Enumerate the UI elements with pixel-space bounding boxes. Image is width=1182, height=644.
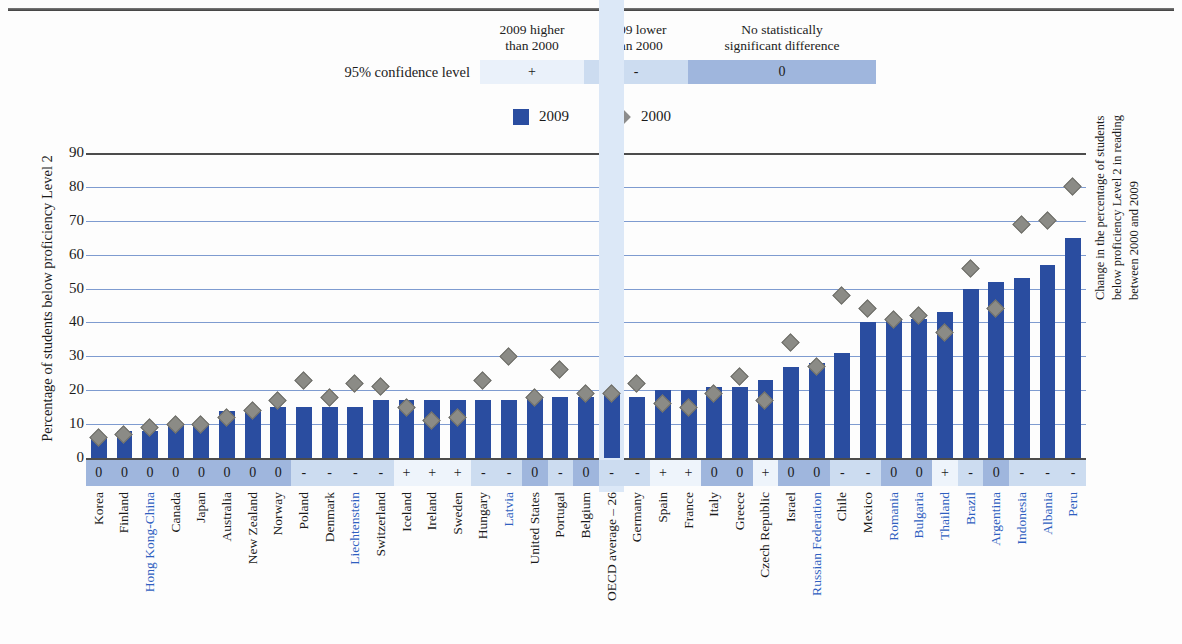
bars-layer xyxy=(86,153,1086,458)
category-label-text: France xyxy=(681,492,697,529)
category-label-text: Australia xyxy=(219,492,235,542)
bar-column[interactable] xyxy=(137,153,163,458)
bar-column[interactable] xyxy=(1035,153,1061,458)
bar-column[interactable] xyxy=(471,153,497,458)
bar-column[interactable] xyxy=(214,153,240,458)
bar-2009[interactable] xyxy=(501,400,517,458)
marker-2000-diamond-icon[interactable] xyxy=(551,361,569,379)
bar-column[interactable] xyxy=(317,153,343,458)
bar-2009[interactable] xyxy=(347,407,363,458)
bar-2009[interactable] xyxy=(860,322,876,458)
bar-column[interactable] xyxy=(163,153,189,458)
bar-column[interactable] xyxy=(804,153,830,458)
significance-cell: + xyxy=(753,460,779,486)
bar-column[interactable] xyxy=(958,153,984,458)
bar-2009[interactable] xyxy=(783,367,799,459)
bar-column[interactable] xyxy=(112,153,138,458)
marker-2000-diamond-icon[interactable] xyxy=(833,286,851,304)
significance-swatch-higher: + xyxy=(480,60,584,84)
bar-2009[interactable] xyxy=(424,400,440,458)
bar-column[interactable] xyxy=(778,153,804,458)
marker-2000-diamond-icon[interactable] xyxy=(320,388,338,406)
significance-cell: + xyxy=(445,460,471,486)
marker-2000-diamond-icon[interactable] xyxy=(730,367,748,385)
bar-2009[interactable] xyxy=(1014,278,1030,458)
marker-2000-diamond-icon[interactable] xyxy=(1063,178,1081,196)
significance-cell: 0 xyxy=(522,460,548,486)
bar-2009[interactable] xyxy=(834,353,850,458)
bar-column[interactable] xyxy=(445,153,471,458)
bar-column[interactable] xyxy=(753,153,779,458)
bar-2009[interactable] xyxy=(911,319,927,458)
bar-column[interactable] xyxy=(855,153,881,458)
marker-2000-diamond-icon[interactable] xyxy=(499,347,517,365)
marker-2000-diamond-icon[interactable] xyxy=(628,374,646,392)
category-label: Ireland xyxy=(419,490,445,640)
bar-2009[interactable] xyxy=(1040,265,1056,458)
bar-column[interactable] xyxy=(1009,153,1035,458)
marker-2000-diamond-icon[interactable] xyxy=(294,371,312,389)
bar-column[interactable] xyxy=(907,153,933,458)
bar-2009[interactable] xyxy=(296,407,312,458)
bar-2009[interactable] xyxy=(886,319,902,458)
bar-column[interactable] xyxy=(522,153,548,458)
marker-2000-diamond-icon[interactable] xyxy=(858,300,876,318)
category-label: Poland xyxy=(291,490,317,640)
bar-2009[interactable] xyxy=(1065,238,1081,458)
bar-column[interactable] xyxy=(932,153,958,458)
category-label-text: Indonesia xyxy=(1014,492,1030,544)
bar-column[interactable] xyxy=(599,153,625,458)
bar-column[interactable] xyxy=(573,153,599,458)
bar-2009[interactable] xyxy=(373,400,389,458)
bar-column[interactable] xyxy=(727,153,753,458)
bar-2009[interactable] xyxy=(552,397,568,458)
bar-column[interactable] xyxy=(394,153,420,458)
category-label: Hong Kong-China xyxy=(137,490,163,640)
marker-2000-diamond-icon[interactable] xyxy=(1038,212,1056,230)
bar-column[interactable] xyxy=(983,153,1009,458)
category-label-text: OECD average – 26 xyxy=(604,492,620,601)
category-label: Spain xyxy=(650,490,676,640)
bar-column[interactable] xyxy=(676,153,702,458)
bar-2009[interactable] xyxy=(809,363,825,458)
bar-column[interactable] xyxy=(830,153,856,458)
bar-2009[interactable] xyxy=(732,387,748,458)
bar-column[interactable] xyxy=(265,153,291,458)
bar-2009[interactable] xyxy=(475,400,491,458)
significance-cell: 0 xyxy=(112,460,138,486)
bar-2009[interactable] xyxy=(963,289,979,458)
category-label: Czech Republic xyxy=(753,490,779,640)
marker-2000-diamond-icon[interactable] xyxy=(961,259,979,277)
marker-2000-diamond-icon[interactable] xyxy=(474,371,492,389)
marker-2000-diamond-icon[interactable] xyxy=(1012,215,1030,233)
bar-2009[interactable] xyxy=(322,407,338,458)
bar-2009[interactable] xyxy=(578,397,594,458)
bar-column[interactable] xyxy=(496,153,522,458)
category-label-text: Spain xyxy=(655,492,671,523)
significance-cell: - xyxy=(1009,460,1035,486)
bar-column[interactable] xyxy=(189,153,215,458)
marker-2000-diamond-icon[interactable] xyxy=(371,378,389,396)
category-label-text: Switzerland xyxy=(373,492,389,556)
bar-column[interactable] xyxy=(240,153,266,458)
bar-column[interactable] xyxy=(650,153,676,458)
marker-2000-diamond-icon[interactable] xyxy=(346,374,364,392)
bar-column[interactable] xyxy=(624,153,650,458)
bar-column[interactable] xyxy=(548,153,574,458)
bar-column[interactable] xyxy=(368,153,394,458)
category-label-text: Russian Federation xyxy=(809,492,825,596)
bar-column[interactable] xyxy=(881,153,907,458)
marker-2000-diamond-icon[interactable] xyxy=(781,334,799,352)
bar-column[interactable] xyxy=(86,153,112,458)
bar-column[interactable] xyxy=(419,153,445,458)
bar-column[interactable] xyxy=(342,153,368,458)
bar-2009[interactable] xyxy=(629,397,645,458)
bar-2009[interactable] xyxy=(270,407,286,458)
significance-cell: 0 xyxy=(189,460,215,486)
plot-area xyxy=(86,153,1086,458)
bar-2009[interactable] xyxy=(604,394,620,458)
bar-column[interactable] xyxy=(701,153,727,458)
category-label-text: Poland xyxy=(296,492,312,530)
bar-column[interactable] xyxy=(1060,153,1086,458)
bar-column[interactable] xyxy=(291,153,317,458)
